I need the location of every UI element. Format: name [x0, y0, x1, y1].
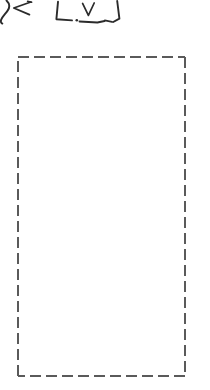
dashed-region-interior	[18, 57, 185, 376]
period-dot-mark-icon	[76, 19, 79, 22]
page-canvas	[0, 0, 210, 390]
dashed-region-svg	[17, 56, 186, 377]
angle-bracket-mark-icon	[14, 1, 32, 14]
bracket-box-mark-icon	[56, 1, 119, 22]
dashed-selection-region[interactable]	[17, 56, 186, 377]
vee-mark-icon	[83, 3, 95, 15]
curved-stroke-mark-icon	[1, 1, 9, 24]
dashed-region-content	[17, 377, 18, 378]
